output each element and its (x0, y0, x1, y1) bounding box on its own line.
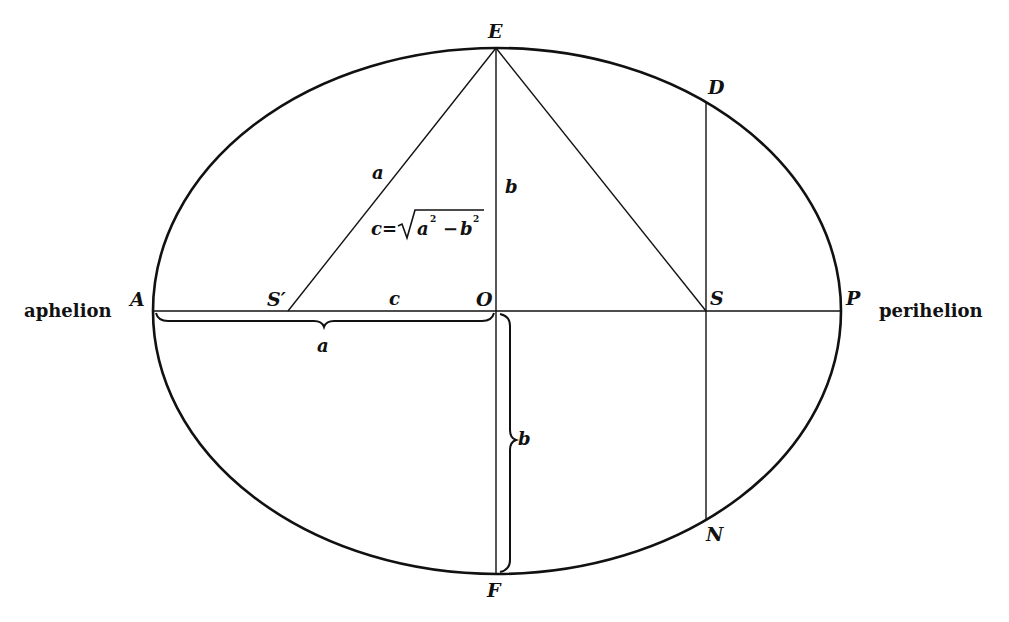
segment-label-b-upper: b (505, 176, 518, 197)
brace-b (500, 314, 516, 572)
label-o: O (476, 288, 493, 310)
brace-label-b: b (518, 428, 531, 449)
label-d: D (707, 76, 725, 98)
line-e-s (496, 48, 706, 311)
ellipse-diagram: E F A P O S S′ D N aphelion perihelion a… (0, 0, 1009, 622)
label-s: S (710, 287, 724, 309)
formula-minus: − (443, 218, 458, 239)
perihelion-label: perihelion (879, 300, 983, 321)
line-e-sprime (288, 48, 496, 311)
formula-equals: = (382, 218, 397, 239)
label-p: P (845, 287, 861, 309)
aphelion-label: aphelion (24, 300, 112, 321)
label-a: A (128, 288, 145, 310)
formula-c: c = a 2 − b 2 (371, 210, 484, 239)
label-n: N (705, 523, 724, 545)
segment-label-a-upper: a (372, 162, 384, 183)
formula-lhs: c (371, 218, 382, 239)
label-s-prime: S′ (267, 288, 286, 310)
label-e: E (487, 20, 503, 42)
formula-exp1: 2 (430, 214, 436, 224)
label-f: F (486, 579, 502, 601)
formula-exp2: 2 (473, 214, 479, 224)
formula-b: b (460, 218, 473, 239)
brace-a (156, 313, 494, 327)
segment-label-c: c (389, 288, 400, 309)
brace-label-a: a (317, 335, 329, 356)
formula-a: a (417, 218, 429, 239)
